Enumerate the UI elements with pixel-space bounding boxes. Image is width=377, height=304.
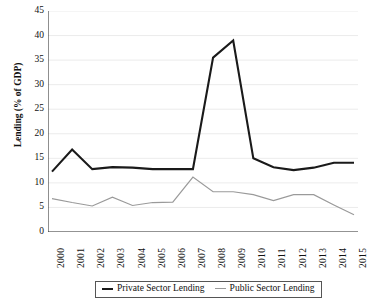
x-tick-label: 2008 bbox=[217, 248, 227, 268]
plot-area bbox=[48, 11, 358, 232]
x-tick-label: 2000 bbox=[56, 248, 66, 268]
y-tick-label: 0 bbox=[22, 227, 44, 237]
x-tick-label: 2003 bbox=[116, 248, 126, 268]
x-tick-label: 2004 bbox=[137, 248, 147, 268]
legend-item-private: Private Sector Lending bbox=[102, 284, 205, 294]
y-tick-label: 30 bbox=[22, 80, 44, 90]
x-axis-tick-labels: 2000200120022003200420052006200720082009… bbox=[48, 236, 358, 278]
y-tick-label: 25 bbox=[22, 104, 44, 114]
x-tick-label: 2002 bbox=[96, 248, 106, 268]
chart-figure: Lending (% of GDP) 051015202530354045 20… bbox=[0, 0, 377, 304]
y-tick-label: 35 bbox=[22, 55, 44, 65]
y-axis-tick-labels: 051015202530354045 bbox=[18, 0, 44, 304]
y-tick-label: 10 bbox=[22, 178, 44, 188]
x-tick-label: 2012 bbox=[298, 248, 308, 268]
y-tick-label: 5 bbox=[22, 202, 44, 212]
y-tick-label: 40 bbox=[22, 31, 44, 41]
y-tick-label: 45 bbox=[22, 6, 44, 16]
x-tick-label: 2010 bbox=[257, 248, 267, 268]
legend-label-public: Public Sector Lending bbox=[230, 284, 315, 294]
x-tick-label: 2009 bbox=[237, 248, 247, 268]
x-tick-label: 2001 bbox=[76, 248, 86, 268]
y-tick-label: 20 bbox=[22, 129, 44, 139]
legend-line-public-icon bbox=[215, 288, 226, 289]
legend-line-private-icon bbox=[102, 288, 113, 290]
x-tick-label: 2015 bbox=[358, 248, 368, 268]
legend-item-public: Public Sector Lending bbox=[215, 284, 315, 294]
x-tick-label: 2006 bbox=[177, 248, 187, 268]
x-tick-label: 2013 bbox=[318, 248, 328, 268]
legend-label-private: Private Sector Lending bbox=[117, 284, 205, 294]
x-tick-label: 2005 bbox=[157, 248, 167, 268]
chart-legend: Private Sector Lending Public Sector Len… bbox=[95, 281, 322, 298]
x-tick-label: 2007 bbox=[197, 248, 207, 268]
plot-svg bbox=[48, 11, 358, 232]
y-tick-label: 15 bbox=[22, 153, 44, 163]
x-tick-label: 2014 bbox=[338, 248, 348, 268]
x-tick-label: 2011 bbox=[277, 248, 287, 268]
